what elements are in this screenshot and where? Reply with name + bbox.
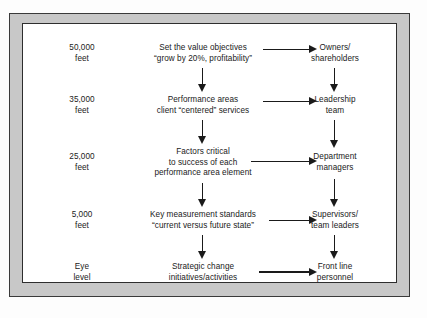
altitude-label: 35,000 feet — [39, 95, 125, 116]
arrow-head — [309, 97, 317, 105]
arrow-down-center-3 — [198, 183, 207, 207]
diagram-grid: 50,000 feet Set the value objectives “gr… — [23, 24, 396, 282]
strategic-content: Set the value objectives “grow by 20%, p… — [127, 43, 279, 64]
arrow-right-row-5 — [259, 268, 317, 276]
figure-page: 50,000 feet Set the value objectives “gr… — [0, 0, 427, 318]
arrow-head — [330, 199, 338, 207]
strategic-content: Strategic change initiatives/activities — [127, 262, 279, 283]
arrow-shaft — [334, 179, 335, 200]
strategic-content: Key measurement standards “current versu… — [127, 210, 279, 231]
arrow-head — [330, 84, 338, 92]
arrow-right-row-3 — [251, 157, 317, 165]
arrow-down-role-1 — [330, 68, 339, 92]
arrow-right-row-1 — [263, 45, 317, 53]
arrow-head — [198, 199, 206, 207]
arrow-down-center-2 — [198, 120, 207, 144]
figure-inner-panel: 50,000 feet Set the value objectives “gr… — [22, 23, 397, 283]
arrow-right-row-2 — [263, 97, 317, 105]
altitude-label: Eye level — [39, 262, 125, 283]
arrow-shaft — [202, 68, 203, 85]
arrow-shaft — [202, 183, 203, 200]
strategic-content: Performance areas client “centered” serv… — [127, 95, 279, 116]
arrow-down-role-3 — [330, 179, 339, 207]
arrow-shaft — [263, 101, 310, 102]
altitude-label: 50,000 feet — [39, 43, 125, 64]
arrow-head — [198, 251, 206, 259]
arrow-shaft — [334, 68, 335, 85]
arrow-head — [309, 216, 317, 224]
arrow-head — [330, 251, 338, 259]
arrow-shaft — [202, 235, 203, 252]
arrow-shaft — [259, 271, 310, 273]
arrow-head — [198, 136, 206, 144]
arrow-shaft — [263, 49, 310, 50]
arrow-down-role-2 — [330, 120, 339, 148]
arrow-head — [309, 45, 317, 53]
arrow-shaft — [334, 120, 335, 141]
arrow-down-center-4 — [198, 235, 207, 259]
altitude-label: 25,000 feet — [39, 152, 125, 173]
arrow-head — [330, 140, 338, 148]
arrow-shaft — [334, 235, 335, 252]
arrow-shaft — [251, 161, 310, 162]
arrow-shaft — [202, 120, 203, 137]
arrow-shaft — [269, 220, 310, 221]
arrow-down-center-1 — [198, 68, 207, 92]
arrow-right-row-4 — [269, 216, 317, 224]
altitude-label: 5,000 feet — [39, 210, 125, 231]
arrow-head — [198, 84, 206, 92]
arrow-head — [309, 268, 317, 276]
arrow-down-role-4 — [330, 235, 339, 259]
arrow-head — [309, 157, 317, 165]
